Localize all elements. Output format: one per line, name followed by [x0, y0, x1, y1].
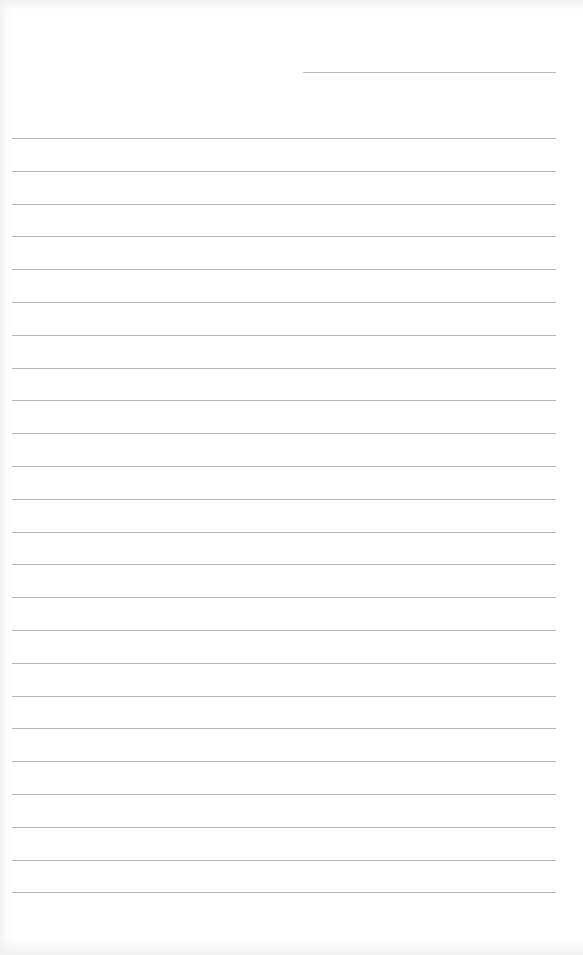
- ruled-line: [12, 860, 556, 861]
- ruled-line: [12, 269, 556, 270]
- ruled-line: [12, 663, 556, 664]
- lined-paper-page: [0, 0, 583, 955]
- ruled-line: [12, 433, 556, 434]
- ruled-line: [12, 532, 556, 533]
- ruled-line: [12, 466, 556, 467]
- header-line: [303, 72, 556, 73]
- page-bottom-shadow: [0, 939, 583, 955]
- page-top-shadow: [0, 0, 583, 10]
- ruled-line: [12, 302, 556, 303]
- ruled-line: [12, 368, 556, 369]
- ruled-line: [12, 761, 556, 762]
- ruled-line: [12, 597, 556, 598]
- ruled-line: [12, 892, 556, 893]
- ruled-line: [12, 236, 556, 237]
- ruled-line: [12, 564, 556, 565]
- ruled-line: [12, 827, 556, 828]
- ruled-line: [12, 794, 556, 795]
- ruled-line: [12, 400, 556, 401]
- ruled-line: [12, 171, 556, 172]
- ruled-line: [12, 335, 556, 336]
- ruled-line: [12, 630, 556, 631]
- ruled-line: [12, 138, 556, 139]
- ruled-line: [12, 499, 556, 500]
- ruled-line: [12, 204, 556, 205]
- ruled-line: [12, 728, 556, 729]
- ruled-line: [12, 696, 556, 697]
